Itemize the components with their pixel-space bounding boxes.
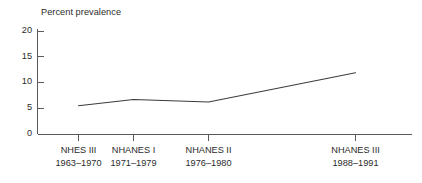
x-axis-ticks [79,135,356,142]
y-axis [38,29,44,134]
x-tick-label-name: NHANES II [158,144,259,157]
x-tick-label-period: 1976–1980 [158,157,259,170]
y-tick-label-15: 15 [6,51,32,61]
y-tick-label-20: 20 [6,25,32,35]
x-tick-label-name: NHANES III [305,144,406,157]
y-axis-ticks [38,31,44,108]
x-axis [38,135,413,142]
chart-figure: Percent prevalence 20 15 10 5 0 N [0,0,422,183]
x-tick-label-nhanes-ii: NHANES II 1976–1980 [158,144,259,169]
y-tick-label-5: 5 [6,102,32,112]
x-tick-label-nhanes-iii: NHANES III 1988–1991 [305,144,406,169]
y-tick-label-10: 10 [6,76,32,86]
y-tick-label-0: 0 [6,128,32,138]
x-tick-label-period: 1988–1991 [305,157,406,170]
prevalence-line-series [79,73,356,106]
